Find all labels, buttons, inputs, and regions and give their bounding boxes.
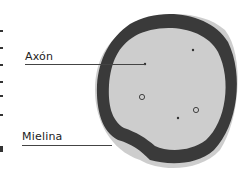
myelin-leader-line bbox=[22, 145, 112, 146]
organelle-dot bbox=[177, 117, 179, 119]
myelin-label: Mielina bbox=[22, 130, 63, 143]
axon-leader-line bbox=[25, 64, 145, 65]
axon-cross-section-illustration bbox=[0, 0, 246, 178]
organelle-dot bbox=[192, 49, 194, 51]
axon-label: Axón bbox=[25, 50, 53, 63]
